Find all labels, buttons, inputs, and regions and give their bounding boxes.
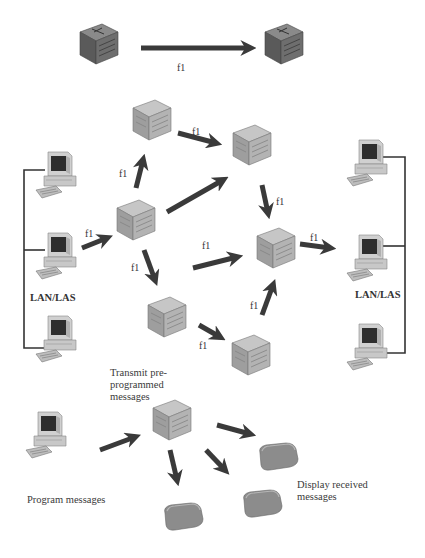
right-pc-2 [347, 235, 387, 281]
left-pc-2 [36, 233, 76, 279]
mux-node-lower-left [148, 297, 186, 337]
mux-node-lower-right [232, 335, 270, 375]
mux-node-top [133, 100, 171, 140]
cnr-radio-right [260, 443, 298, 470]
link-label: f1 [119, 168, 127, 179]
link-label: f1 [250, 300, 258, 311]
display-note: Display received messages [297, 479, 368, 503]
link-label: f1 [276, 196, 284, 207]
f3-mux [153, 400, 191, 440]
right-lan-label: LAN/LAS [355, 289, 401, 300]
left-pc-1 [36, 152, 76, 198]
mux-node-center-right [257, 228, 295, 268]
top-mux-right [265, 24, 303, 64]
network-diagram [0, 0, 425, 558]
program-pc [26, 412, 66, 458]
right-pc-1 [347, 140, 387, 186]
right-lan-line [382, 157, 405, 353]
transmit-note: Transmit pre- programmed messages [110, 367, 167, 403]
mux-node-left [117, 200, 155, 240]
cnr-radio-middle [244, 490, 282, 517]
program-note: Program messages [27, 494, 105, 506]
link-label: f1 [199, 340, 207, 351]
left-lan-label: LAN/LAS [30, 292, 76, 303]
top-mux-left [80, 24, 118, 64]
link-label: f1 [131, 262, 139, 273]
link-label: f1 [192, 126, 200, 137]
link-label: f1 [310, 232, 318, 243]
link-label: f1 [202, 240, 210, 251]
cnr-radio-bottom [165, 503, 203, 530]
mux-node-upper-right [233, 125, 271, 165]
link-label: f1 [85, 228, 93, 239]
right-pc-3 [347, 324, 387, 370]
left-pc-3 [36, 316, 76, 362]
top-link-label: f1 [177, 62, 185, 73]
